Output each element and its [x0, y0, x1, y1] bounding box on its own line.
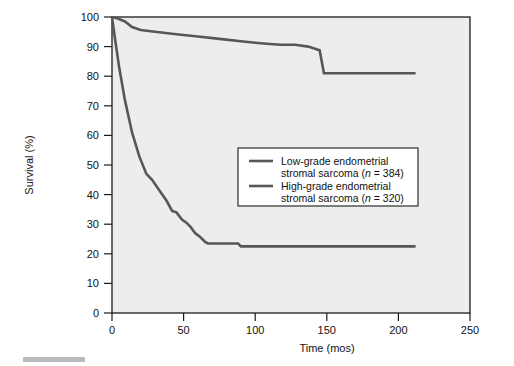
legend-label-low-grade-line2: stromal sarcoma (n = 384): [281, 167, 404, 179]
x-tick-label: 0: [109, 324, 115, 336]
y-tick-label: 0: [93, 307, 99, 319]
x-axis-tick-labels: 0 50 100 150 200 250: [109, 324, 479, 336]
y-axis-title: Survival (%): [23, 135, 35, 194]
y-axis-tick-labels: 0 10 20 30 40 50 60 70 80 90 100: [81, 11, 99, 319]
y-tick-label: 80: [87, 70, 99, 82]
x-tick-label: 200: [389, 324, 407, 336]
y-tick-label: 70: [87, 100, 99, 112]
legend: Low-grade endometrial stromal sarcoma (n…: [238, 148, 418, 206]
y-tick-label: 10: [87, 277, 99, 289]
x-axis-title: Time (mos): [299, 342, 354, 354]
chart-svg: 0 10 20 30 40 50 60 70 80 90 100 Surviva…: [0, 0, 514, 366]
x-tick-label: 100: [246, 324, 264, 336]
legend-label-low-grade-line1: Low-grade endometrial: [281, 155, 388, 167]
caption-marker-bar: [23, 357, 85, 362]
y-tick-label: 60: [87, 129, 99, 141]
y-tick-label: 50: [87, 159, 99, 171]
y-tick-label: 20: [87, 248, 99, 260]
x-axis-ticks: [112, 313, 470, 321]
survival-curve-figure: 0 10 20 30 40 50 60 70 80 90 100 Surviva…: [0, 0, 514, 366]
x-tick-label: 250: [461, 324, 479, 336]
x-tick-label: 150: [318, 324, 336, 336]
legend-label-high-grade-line1: High-grade endometrial: [281, 180, 391, 192]
legend-label-high-grade-line2: stromal sarcoma (n = 320): [281, 192, 404, 204]
y-tick-label: 40: [87, 189, 99, 201]
y-tick-label: 100: [81, 11, 99, 23]
y-tick-label: 90: [87, 41, 99, 53]
x-tick-label: 50: [177, 324, 189, 336]
y-tick-label: 30: [87, 218, 99, 230]
y-axis-ticks: [104, 17, 112, 313]
